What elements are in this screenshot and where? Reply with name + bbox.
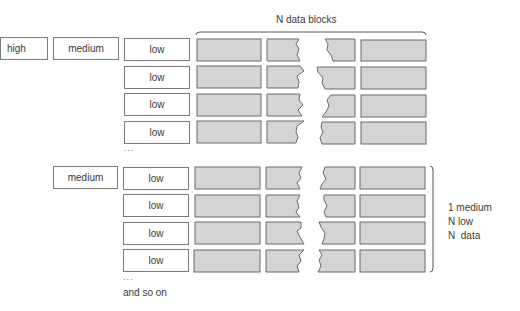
data-block (194, 250, 260, 272)
data-block-torn (267, 121, 304, 143)
data-blocks-graphic (0, 0, 520, 311)
data-block-torn (322, 95, 355, 117)
data-block-torn (319, 222, 355, 244)
data-block-torn (318, 250, 355, 272)
data-block (361, 95, 426, 117)
data-block-torn (317, 67, 355, 89)
data-block (197, 94, 261, 116)
data-block-torn (267, 39, 300, 61)
data-block-torn (266, 195, 300, 217)
data-block (195, 195, 260, 217)
data-block (361, 67, 426, 89)
data-block-torn (266, 222, 304, 244)
data-block-torn (320, 167, 355, 189)
data-block (361, 122, 426, 144)
data-block (360, 250, 425, 272)
data-block-torn (266, 167, 302, 189)
data-block-torn (267, 66, 304, 88)
data-block (195, 167, 260, 189)
data-block-torn (320, 122, 355, 144)
data-block-torn (267, 94, 303, 116)
top-brace-line (196, 32, 426, 35)
data-block-torn (324, 195, 355, 217)
data-block (360, 222, 425, 244)
data-block (361, 40, 426, 61)
data-block (197, 121, 261, 143)
right-bracket (430, 166, 433, 272)
data-block (360, 195, 425, 217)
data-block (195, 222, 260, 244)
data-block (360, 167, 425, 189)
data-block-torn (266, 250, 304, 272)
data-block-torn (325, 39, 355, 61)
data-block (197, 39, 261, 61)
data-block (197, 66, 261, 88)
